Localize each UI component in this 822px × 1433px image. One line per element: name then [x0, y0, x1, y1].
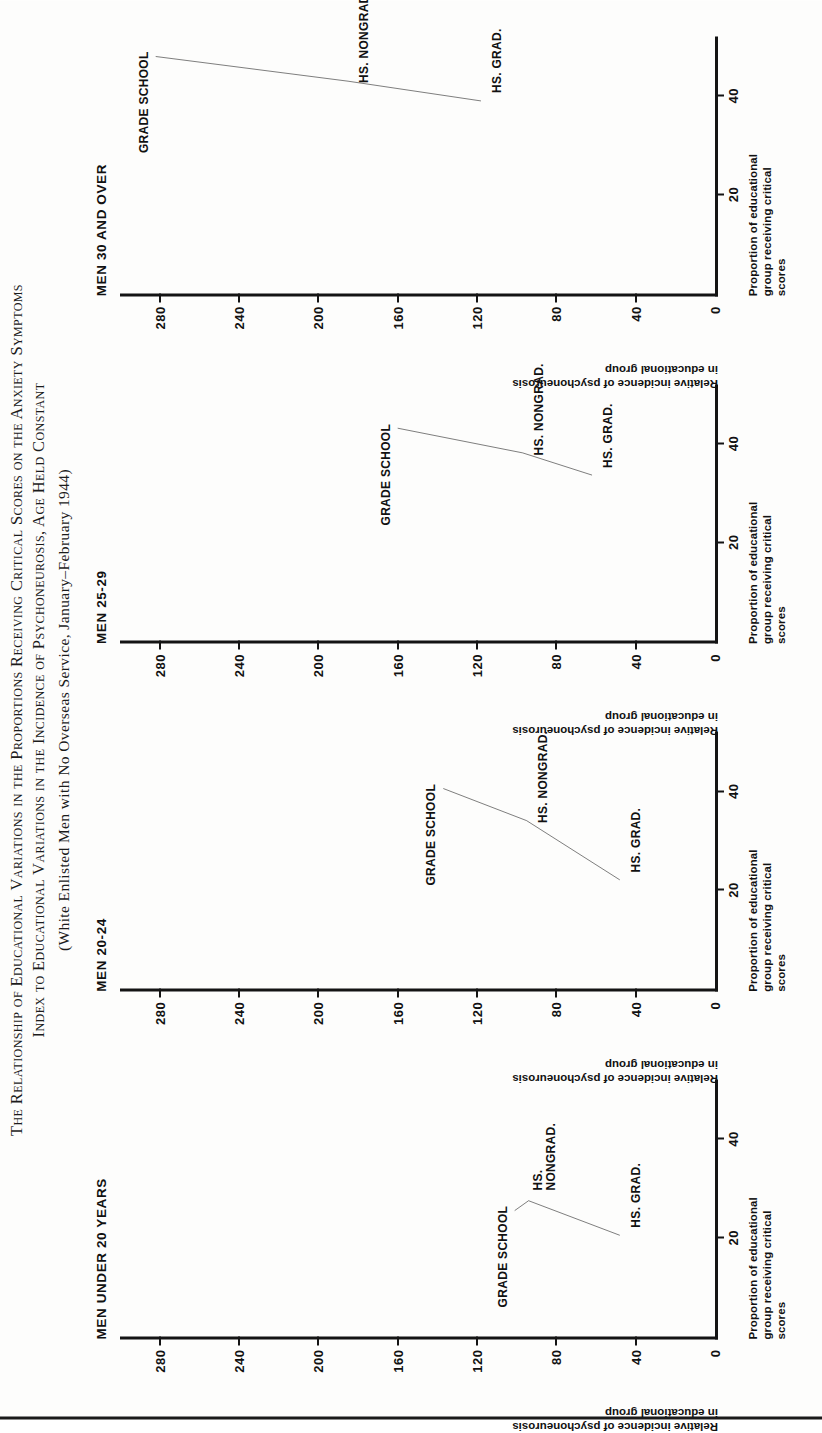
y-axis-tick-label: 120	[470, 654, 485, 677]
data-point-label: HS. GRAD.	[629, 1162, 642, 1227]
x-axis-tick	[715, 1236, 724, 1238]
x-axis-caption: Proportion of educationalgroup receiving…	[746, 726, 788, 992]
y-axis-tick-label: 0	[708, 1349, 723, 1357]
x-axis-tick-label: 20	[726, 882, 741, 897]
x-axis-tick-label: 20	[726, 1230, 741, 1245]
panel-title: MEN 20-24	[94, 918, 109, 992]
y-axis-tick-label: 280	[152, 654, 167, 677]
y-axis-tick	[476, 1336, 478, 1345]
y-axis-tick	[317, 641, 319, 650]
y-axis-caption-line-1: Relative incidence of psychoneurosis	[488, 1419, 718, 1433]
y-axis-tick	[159, 1336, 161, 1345]
x-axis-tick-label: 40	[726, 88, 741, 103]
chart-panel-2: MEN 20-24280240200160120804002040GRADE S…	[92, 706, 814, 1054]
data-line	[120, 732, 715, 989]
x-axis-caption-line-2: group receiving critical	[760, 30, 774, 296]
y-axis-tick	[397, 293, 399, 302]
y-axis-tick-label: 160	[390, 306, 405, 329]
y-axis-tick-label: 120	[470, 1349, 485, 1372]
y-axis-tick	[397, 1336, 399, 1345]
x-axis-tick	[715, 442, 724, 444]
x-axis-caption-line-1: Proportion of educational	[746, 726, 760, 992]
x-axis-tick-label: 20	[726, 186, 741, 201]
y-axis-tick	[238, 1336, 240, 1345]
x-axis-caption-line-2: group receiving critical	[760, 378, 774, 644]
y-axis-tick	[317, 293, 319, 302]
y-axis-tick-label: 160	[390, 654, 405, 677]
y-axis-tick-label: 40	[628, 1349, 643, 1364]
data-point-label: GRADE SCHOOL	[379, 423, 392, 525]
y-axis-caption-line-2: in educational group	[488, 362, 718, 376]
y-axis-tick	[238, 293, 240, 302]
data-point-label: HS. GRAD.	[602, 403, 615, 468]
x-axis-tick	[715, 1138, 724, 1140]
y-axis-tick-label: 200	[311, 1001, 326, 1024]
y-axis-tick-label: 200	[311, 1349, 326, 1372]
y-axis-tick-label: 200	[311, 654, 326, 677]
y-axis-tick-label: 80	[549, 1349, 564, 1364]
panel-title: MEN 30 AND OVER	[94, 163, 109, 295]
data-line	[120, 1079, 715, 1336]
data-point-label: HS. NONGRAD.	[358, 0, 371, 83]
y-axis-caption-line-1: Relative incidence of psychoneurosis	[488, 724, 718, 738]
chart-panel-3: MEN 25-29280240200160120804002040GRADE S…	[92, 358, 814, 706]
x-axis-caption-line-1: Proportion of educational	[746, 1073, 760, 1339]
y-axis-tick-label: 0	[708, 306, 723, 314]
x-axis-caption-line-1: Proportion of educational	[746, 30, 760, 296]
y-axis-tick	[238, 988, 240, 997]
y-axis-tick-label: 0	[708, 1001, 723, 1009]
y-axis-tick-label: 120	[470, 1001, 485, 1024]
y-axis-tick	[555, 293, 557, 302]
y-axis-tick	[635, 293, 637, 302]
title-line-3: (White Enlisted Men with No Overseas Ser…	[54, 0, 74, 1419]
x-axis-tick-label: 40	[726, 1131, 741, 1146]
y-axis-caption: Relative incidence of psychoneurosisin e…	[488, 362, 718, 390]
x-axis-tick	[715, 790, 724, 792]
y-axis-tick-label: 40	[628, 1001, 643, 1016]
x-axis-tick	[715, 541, 724, 543]
y-axis-tick-label: 240	[232, 306, 247, 329]
y-axis-caption-line-2: in educational group	[488, 710, 718, 724]
y-axis-tick	[159, 293, 161, 302]
y-axis-tick-label: 80	[549, 654, 564, 669]
plot-area: 280240200160120804002040GRADE SCHOOLHS. …	[120, 1079, 718, 1339]
y-axis-tick-label: 280	[152, 306, 167, 329]
plot-area: 280240200160120804002040GRADE SCHOOLHS. …	[120, 732, 718, 992]
y-axis-tick-label: 80	[549, 1001, 564, 1016]
figure-title-block: The Relationship of Educational Variatio…	[6, 0, 74, 1419]
y-axis-tick	[159, 988, 161, 997]
y-axis-tick-label: 160	[390, 1349, 405, 1372]
plot-area: 280240200160120804002040GRADE SCHOOLHS. …	[120, 384, 718, 644]
y-axis-tick	[159, 641, 161, 650]
y-axis-caption: Relative incidence of psychoneurosisin e…	[488, 1057, 718, 1085]
x-axis-tick-label: 20	[726, 534, 741, 549]
x-axis-caption-line-3: scores	[774, 726, 788, 992]
y-axis-caption-line-2: in educational group	[488, 1405, 718, 1419]
x-axis-caption: Proportion of educationalgroup receiving…	[746, 378, 788, 644]
x-axis-caption-line-3: scores	[774, 1073, 788, 1339]
data-point-label: HS. NONGRAD.	[536, 730, 549, 822]
x-axis-tick	[715, 193, 724, 195]
x-axis-caption-line-2: group receiving critical	[760, 726, 774, 992]
y-axis-tick-label: 200	[311, 306, 326, 329]
x-axis-caption-line-3: scores	[774, 30, 788, 296]
x-axis-tick	[715, 94, 724, 96]
data-point-label: GRADE SCHOOL	[425, 783, 438, 885]
y-axis-tick	[635, 988, 637, 997]
chart-panel-1: MEN UNDER 20 YEARS2802402001601208040020…	[92, 1053, 814, 1401]
x-axis-caption-line-3: scores	[774, 378, 788, 644]
chart-panel-4: MEN 30 AND OVER280240200160120804002040G…	[92, 10, 814, 358]
panel-title: MEN 25-29	[94, 570, 109, 644]
data-point-label: GRADE SCHOOL	[496, 1205, 509, 1307]
y-axis-caption: Relative incidence of psychoneurosisin e…	[488, 1405, 718, 1433]
y-axis-tick	[397, 641, 399, 650]
y-axis-tick-label: 280	[152, 1349, 167, 1372]
y-axis-tick-label: 120	[470, 306, 485, 329]
y-axis-tick	[317, 988, 319, 997]
x-axis-caption-line-1: Proportion of educational	[746, 378, 760, 644]
y-axis-caption-line-1: Relative incidence of psychoneurosis	[488, 376, 718, 390]
x-axis-tick-label: 40	[726, 783, 741, 798]
title-line-2: Index to Educational Variations in the I…	[28, 0, 50, 1419]
title-line-1: The Relationship of Educational Variatio…	[6, 0, 28, 1419]
